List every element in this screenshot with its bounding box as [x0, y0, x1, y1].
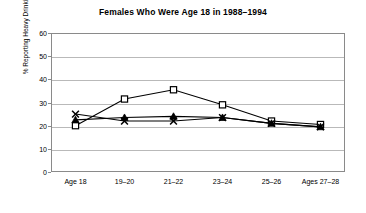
- gridline: [52, 127, 344, 128]
- y-axis-tick-mark: [48, 56, 51, 57]
- gridline: [52, 80, 344, 81]
- y-axis-tick-mark: [48, 126, 51, 127]
- y-axis-tick-mark: [48, 79, 51, 80]
- x-axis-tick-label: 19–20: [115, 178, 134, 185]
- y-axis-tick-label: 60: [19, 30, 47, 37]
- y-axis-tick-label: 0: [19, 169, 47, 176]
- y-axis-tick-label: 50: [19, 53, 47, 60]
- x-axis-tick-label: 23–24: [213, 178, 232, 185]
- y-axis-tick-label: 20: [19, 122, 47, 129]
- x-axis-tick-label: 25–26: [262, 178, 281, 185]
- y-axis-tick-mark: [48, 149, 51, 150]
- y-axis-tick-mark: [48, 103, 51, 104]
- y-axis-tick-mark: [48, 33, 51, 34]
- chart-container: Females Who Were Age 18 in 1988–1994 % R…: [0, 0, 366, 213]
- x-axis-tick-label: Ages 27–28: [302, 178, 339, 185]
- chart-title: Females Who Were Age 18 in 1988–1994: [0, 7, 366, 17]
- gridline: [52, 150, 344, 151]
- y-axis-tick-label: 30: [19, 99, 47, 106]
- y-axis-tick-labels: 6050403020100: [17, 33, 47, 172]
- y-axis-tick-label: 40: [19, 76, 47, 83]
- gridline: [52, 57, 344, 58]
- y-axis-tick-mark: [48, 172, 51, 173]
- y-axis-tick-label: 10: [19, 145, 47, 152]
- gridline: [52, 104, 344, 105]
- x-axis-tick-label: Age 18: [64, 178, 86, 185]
- x-axis-tick-label: 21–22: [164, 178, 183, 185]
- plot-area: [51, 33, 345, 172]
